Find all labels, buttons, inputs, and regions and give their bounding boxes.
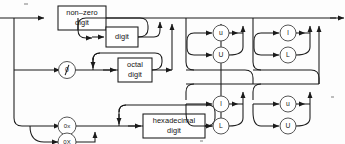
terminal-label-suffix-u-lower-top: u: [219, 29, 223, 36]
suffix-lower-bracket-left: [186, 70, 253, 84]
terminal-label-zero-x: 0x: [64, 123, 70, 129]
terminal-label-suffix-L-upper-bot: L: [219, 122, 223, 129]
suffix-U-branch-rail: [187, 33, 203, 55]
suffix-U-lower-out-rail: [296, 110, 310, 126]
zero-X-branch-rail: [30, 126, 58, 142]
suffix-U-out-rail: [229, 40, 243, 55]
nonterminal-label-octal-digit-line2: digit: [128, 70, 142, 79]
suffix-U-lower-branch-rail: [253, 104, 270, 126]
suffix-lower-bracket-right: [253, 70, 319, 84]
suffix-group-ul-upper: u U l L: [186, 18, 310, 70]
suffix-L-lower-out-rail: [229, 110, 243, 126]
suffix-lower-right-spine: [253, 84, 261, 100]
nonterminal-label-nonzero-digit-line1: non–zero: [66, 8, 98, 17]
terminal-label-suffix-u-lower-bot: u: [286, 100, 290, 107]
zero-X-rejoin-rail: [76, 132, 95, 142]
railroad-diagram: non–zero digit digit 0: [0, 0, 345, 144]
digit-exit-up: [138, 22, 160, 37]
branch-decimal: non–zero digit digit: [58, 6, 344, 47]
terminal-label-suffix-U-upper-bot: U: [286, 122, 291, 129]
terminal-label-suffix-L-upper-top: L: [286, 51, 290, 58]
terminal-label-suffix-U-upper-top: U: [219, 51, 224, 58]
terminal-label-zero-X-upper: 0X: [63, 139, 70, 144]
entry-rail: [0, 18, 60, 126]
nonterminal-label-octal-digit-line1: octal: [127, 60, 143, 69]
suffix-L-branch-rail: [254, 33, 270, 55]
suffix-L-out-rail: [296, 40, 310, 55]
syntax-diagram-canvas: non–zero digit digit 0: [0, 0, 345, 144]
nonterminal-label-hex-digit-line2: digit: [167, 126, 181, 135]
nonterminal-label-nonzero-digit-line2: digit: [75, 18, 89, 27]
suffix-lower-left-spine: [186, 84, 194, 100]
nonterminal-label-digit: digit: [115, 32, 129, 41]
